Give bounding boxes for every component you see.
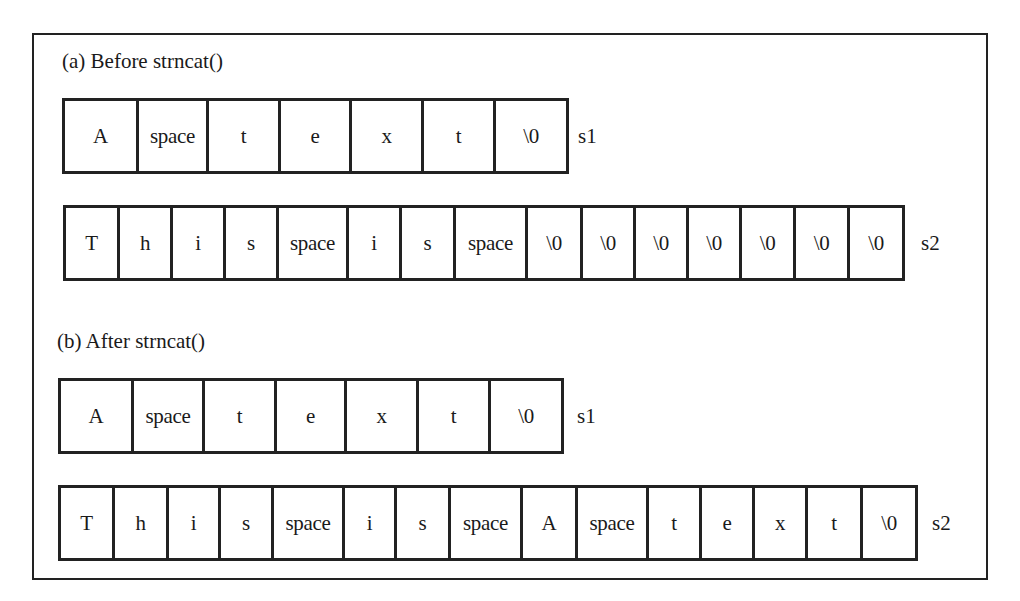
array-cell: t — [205, 381, 277, 451]
array-cell: t — [649, 488, 702, 558]
array-cell: A — [61, 381, 134, 451]
array-cell: t — [424, 101, 496, 171]
array-cell: \0 — [528, 208, 583, 278]
array-s1-after: A space t e x t \0 — [58, 378, 564, 454]
array-cell: t — [419, 381, 491, 451]
array-cell: space — [279, 208, 349, 278]
variable-label-s1: s1 — [577, 404, 596, 428]
array-cell: e — [277, 381, 347, 451]
array-cell: \0 — [850, 208, 905, 278]
array-cell: e — [281, 101, 352, 171]
array-cell: space — [578, 488, 649, 558]
array-cell: \0 — [796, 208, 850, 278]
array-cell: \0 — [636, 208, 689, 278]
variable-label-s2: s2 — [921, 231, 940, 255]
array-cell: space — [134, 381, 205, 451]
array-cell: e — [702, 488, 755, 558]
array-cell: t — [209, 101, 281, 171]
array-cell: t — [808, 488, 863, 558]
array-cell: i — [345, 488, 397, 558]
section-title-before: (a) Before strncat() — [62, 49, 223, 73]
array-cell: \0 — [863, 488, 918, 558]
array-cell: \0 — [583, 208, 636, 278]
array-cell: i — [349, 208, 402, 278]
array-cell: h — [115, 488, 169, 558]
array-cell: h — [120, 208, 173, 278]
variable-label-s1: s1 — [578, 124, 597, 148]
array-s2-after: T h i s space i s space A space t e x t … — [58, 485, 918, 561]
array-cell: \0 — [689, 208, 742, 278]
variable-label-s2: s2 — [932, 511, 951, 535]
array-cell: T — [61, 488, 115, 558]
array-cell: s — [226, 208, 279, 278]
section-title-after: (b) After strncat() — [57, 329, 205, 353]
array-cell: space — [456, 208, 528, 278]
array-s1-before: A space t e x t \0 — [62, 98, 569, 174]
array-cell: s — [397, 488, 451, 558]
array-s2-before: T h i s space i s space \0 \0 \0 \0 \0 \… — [63, 205, 905, 281]
array-cell: A — [65, 101, 139, 171]
array-cell: \0 — [496, 101, 569, 171]
array-cell: space — [451, 488, 523, 558]
array-cell: space — [139, 101, 209, 171]
array-cell: i — [173, 208, 226, 278]
array-cell: x — [347, 381, 419, 451]
array-cell: x — [755, 488, 808, 558]
array-cell: space — [274, 488, 345, 558]
array-cell: s — [221, 488, 274, 558]
array-cell: \0 — [742, 208, 796, 278]
array-cell: x — [352, 101, 424, 171]
array-cell: i — [169, 488, 221, 558]
array-cell: s — [402, 208, 456, 278]
array-cell: A — [523, 488, 578, 558]
array-cell: \0 — [491, 381, 564, 451]
array-cell: T — [66, 208, 120, 278]
